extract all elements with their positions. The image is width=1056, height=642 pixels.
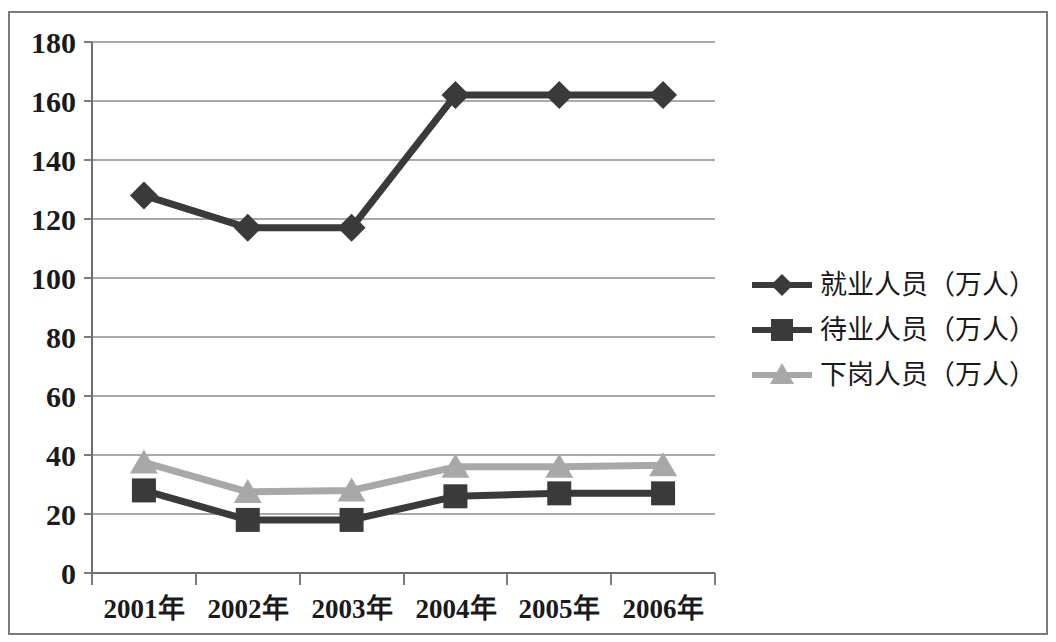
x-tick-marks [92, 573, 715, 585]
y-label-60: 60 [46, 380, 76, 413]
legend-item-awaiting[interactable]: 待业人员（万人） [752, 314, 1036, 345]
x-label-2005: 2005年 [519, 593, 600, 624]
square-marker [236, 508, 260, 532]
y-label-20: 20 [46, 498, 76, 531]
square-marker [340, 508, 364, 532]
x-label-2002: 2002年 [208, 593, 289, 624]
square-marker [443, 484, 467, 508]
x-axis-labels: 2001年 2002年 2003年 2004年 2005年 2006年 [104, 593, 704, 624]
x-label-2004: 2004年 [416, 593, 497, 624]
data-series-layer [130, 81, 677, 532]
legend-label-awaiting: 待业人员（万人） [820, 314, 1036, 345]
triangle-marker [130, 449, 158, 473]
diamond-marker [234, 214, 262, 242]
y-label-140: 140 [31, 144, 76, 177]
y-label-100: 100 [31, 262, 76, 295]
y-axis-labels: 180 160 140 120 100 80 60 40 20 0 [31, 26, 76, 590]
diamond-marker [545, 81, 573, 109]
legend-label-employed: 就业人员（万人） [820, 269, 1036, 300]
series-line [144, 95, 663, 228]
x-label-2001: 2001年 [104, 593, 185, 624]
legend-item-employed[interactable]: 就业人员（万人） [752, 269, 1036, 300]
gridlines [92, 42, 715, 514]
y-label-180: 180 [31, 26, 76, 59]
chart-page: 180 160 140 120 100 80 60 40 20 0 2001年 … [0, 0, 1056, 642]
legend-item-laidoff[interactable]: 下岗人员（万人） [752, 359, 1036, 390]
y-label-0: 0 [61, 557, 76, 590]
square-marker [547, 481, 571, 505]
series-line [144, 490, 663, 520]
y-tick-marks [84, 42, 92, 573]
x-label-2006: 2006年 [623, 593, 704, 624]
square-marker [651, 481, 675, 505]
diamond-marker-icon [771, 274, 793, 296]
square-marker [132, 478, 156, 502]
square-marker-icon [771, 319, 793, 341]
y-label-160: 160 [31, 85, 76, 118]
y-label-80: 80 [46, 321, 76, 354]
x-label-2003: 2003年 [312, 593, 393, 624]
legend-label-laidoff: 下岗人员（万人） [820, 359, 1036, 390]
diamond-marker [649, 81, 677, 109]
series-line [144, 462, 663, 492]
line-chart: 180 160 140 120 100 80 60 40 20 0 2001年 … [0, 0, 1056, 642]
y-label-40: 40 [46, 439, 76, 472]
series-2 [132, 478, 675, 532]
y-label-120: 120 [31, 203, 76, 236]
diamond-marker [130, 181, 158, 209]
legend: 就业人员（万人） 待业人员（万人） 下岗人员（万人） [752, 269, 1036, 390]
series-1 [130, 81, 677, 242]
